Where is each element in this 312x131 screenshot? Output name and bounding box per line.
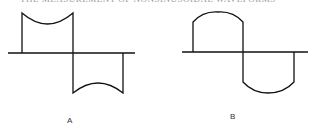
figure-label-a: A bbox=[67, 116, 72, 125]
waveform-diagram bbox=[0, 0, 312, 131]
waveform-a bbox=[8, 13, 135, 93]
figure-label-b: B bbox=[230, 112, 235, 121]
waveform-b bbox=[182, 12, 308, 93]
